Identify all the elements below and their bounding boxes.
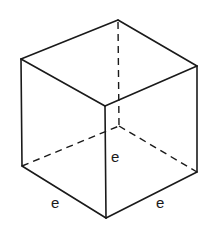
hidden-edge-vertical-back [118, 22, 119, 126]
edge-top-back-right [118, 20, 197, 66]
edge-vertical-front [105, 106, 106, 218]
edge-bottom-front-right [106, 172, 197, 218]
hidden-edge-bottom-left [22, 126, 119, 166]
edge-bottom-left-front [22, 166, 106, 218]
label-right-edge: e [156, 194, 164, 211]
cube-diagram: e e e [0, 0, 204, 225]
hidden-edge-bottom-right [119, 126, 197, 172]
edge-vertical-left [21, 59, 22, 166]
label-height: e [111, 148, 119, 165]
edge-top-left-back [21, 20, 118, 59]
edge-top-front-left [21, 59, 105, 106]
label-left-edge: e [51, 194, 59, 211]
